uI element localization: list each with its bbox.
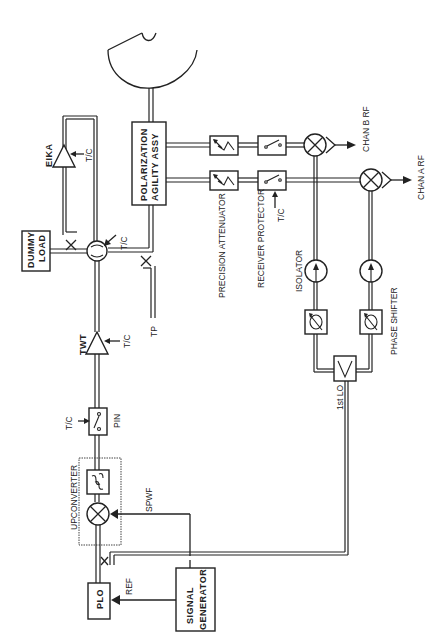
receiver-protector-label: RECEIVER PROTECTOR	[256, 189, 266, 288]
rf-block-diagram: POLARIZATION AGILITY ASSY TP EIKA T/C T	[0, 0, 444, 643]
twt-tc-arrow-icon	[104, 338, 120, 344]
polarization-label-line1: POLARIZATION	[139, 128, 149, 201]
power-divider-icon	[334, 356, 356, 381]
twt-tc-label: T/C	[122, 334, 132, 348]
mixer-b-icon	[304, 134, 335, 156]
directional-coupler-icon	[101, 557, 108, 565]
eika-tc-label: T/C	[84, 148, 94, 162]
antenna-dish-icon	[108, 33, 197, 88]
twt-amplifier-icon	[86, 332, 108, 354]
phase-shifter-label: PHASE SHIFTER	[389, 287, 399, 355]
circulator-icon	[87, 241, 107, 261]
precision-attenuator-a-icon	[210, 171, 238, 190]
mixer-a-icon	[360, 169, 391, 191]
phase-shifter-b-icon	[305, 310, 327, 334]
polarization-agility-assy-block: POLARIZATION AGILITY ASSY	[132, 122, 166, 205]
ref-arrow-icon	[111, 595, 120, 605]
signal-generator-label-line1: SIGNAL	[185, 587, 195, 624]
pin-label: PIN	[112, 414, 122, 428]
chan-a-arrow-icon	[403, 176, 412, 184]
receiver-protector-b-icon	[258, 136, 286, 155]
upconverter-label: UPCONVERTER	[69, 465, 79, 530]
mixer-icon	[87, 503, 109, 525]
precision-attenuator-label: PRECISION ATTENUATOR	[217, 193, 227, 298]
chan-b-rf-label: CHAN B RF	[361, 106, 371, 152]
tp-label: TP	[149, 326, 159, 337]
plo-label: PLO	[95, 589, 105, 609]
spwf-arrow-icon	[110, 509, 118, 519]
signal-generator-label-line2: GENERATOR	[198, 569, 208, 630]
dummy-load-label-line2: LOAD	[37, 235, 47, 263]
pin-tc-label: T/C	[64, 416, 74, 430]
first-lo-label: 1st LO	[335, 385, 345, 410]
receiver-protector-tc-arrow-icon	[272, 191, 278, 208]
spwf-label: SPWF	[144, 487, 154, 512]
chan-b-arrow-icon	[347, 141, 356, 149]
eika-amplifier-icon	[53, 145, 75, 167]
isolator-label: ISOLATOR	[294, 250, 304, 292]
plo-block: PLO	[88, 583, 110, 619]
twt-label: TWT	[78, 334, 88, 355]
circulator-tc-label: T/C	[119, 236, 129, 250]
precision-attenuator-b-icon	[210, 136, 238, 155]
pin-switch-block	[89, 408, 107, 435]
ref-label: REF	[124, 578, 134, 595]
eika-tc-arrow-icon	[70, 151, 84, 157]
dummy-load-label-line1: DUMMY	[26, 232, 36, 269]
dummy-load-block: DUMMY LOAD	[22, 231, 50, 271]
chan-a-rf-label: CHAN A RF	[416, 155, 426, 200]
isolator-a-icon	[360, 260, 382, 282]
signal-generator-block: SIGNAL GENERATOR	[176, 568, 215, 631]
directional-coupler-icon	[141, 256, 151, 266]
receiver-protector-tc-label: T/C	[276, 208, 286, 222]
polarization-label-line2: AGILITY ASSY	[150, 133, 160, 201]
receiver-protector-a-icon	[258, 171, 286, 190]
circulator-tc-arrow-icon	[104, 235, 116, 246]
phase-shifter-a-icon	[360, 310, 382, 334]
isolator-b-icon	[305, 260, 327, 282]
filter-icon	[87, 470, 109, 494]
eika-label: EIKA	[44, 143, 54, 167]
pin-tc-arrow-icon	[78, 418, 90, 424]
